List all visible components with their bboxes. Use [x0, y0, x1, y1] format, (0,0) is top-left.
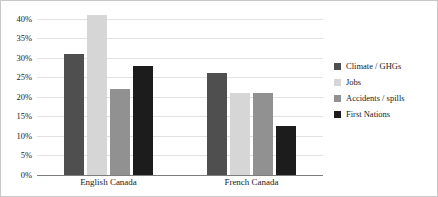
legend-label: Climate / GHGs	[346, 62, 401, 71]
plot-box	[37, 9, 323, 175]
bar-groups	[37, 9, 323, 175]
y-axis-tick-label: 0%	[21, 171, 32, 180]
y-axis-tick-labels: 40% 35% 30% 25% 20% 15% 10% 5% 0%	[1, 9, 35, 175]
y-axis-tick-label: 5%	[21, 151, 32, 160]
y-axis-tick-label: 20%	[16, 93, 32, 102]
bar[interactable]	[230, 93, 250, 175]
legend-label: Jobs	[346, 78, 361, 87]
legend-item[interactable]: Climate / GHGs	[334, 58, 438, 74]
legend-swatch-icon	[334, 63, 341, 70]
bar[interactable]	[253, 93, 273, 175]
legend: Climate / GHGsJobsAccidents / spillsFirs…	[334, 58, 438, 122]
bar-group	[180, 9, 323, 175]
bar[interactable]	[207, 73, 227, 175]
y-axis-tick-label: 25%	[16, 73, 32, 82]
legend-label: First Nations	[346, 110, 390, 119]
x-axis-category-label: English Canada	[37, 177, 180, 187]
bar[interactable]	[276, 126, 296, 175]
x-axis-line	[37, 175, 323, 176]
legend-item[interactable]: Jobs	[334, 74, 438, 90]
y-axis-tick-label: 10%	[16, 132, 32, 141]
legend-swatch-icon	[334, 95, 341, 102]
legend-item[interactable]: Accidents / spills	[334, 90, 438, 106]
y-axis-tick-label: 15%	[16, 112, 32, 121]
y-axis-tick-label: 35%	[16, 34, 32, 43]
legend-label: Accidents / spills	[346, 94, 405, 103]
bar[interactable]	[133, 66, 153, 175]
legend-swatch-icon	[334, 79, 341, 86]
bar[interactable]	[64, 54, 84, 175]
bar-group	[37, 9, 180, 175]
bar[interactable]	[110, 89, 130, 175]
x-axis-category-labels: English CanadaFrench Canada	[37, 177, 323, 187]
plot-area: 40% 35% 30% 25% 20% 15% 10% 5% 0% Englis…	[1, 1, 331, 197]
legend-item[interactable]: First Nations	[334, 106, 438, 122]
x-axis-category-label: French Canada	[180, 177, 323, 187]
y-axis-tick-label: 40%	[16, 15, 32, 24]
bar[interactable]	[87, 15, 107, 175]
legend-swatch-icon	[334, 111, 341, 118]
y-axis-tick-label: 30%	[16, 54, 32, 63]
chart-frame: 40% 35% 30% 25% 20% 15% 10% 5% 0% Englis…	[0, 0, 438, 197]
